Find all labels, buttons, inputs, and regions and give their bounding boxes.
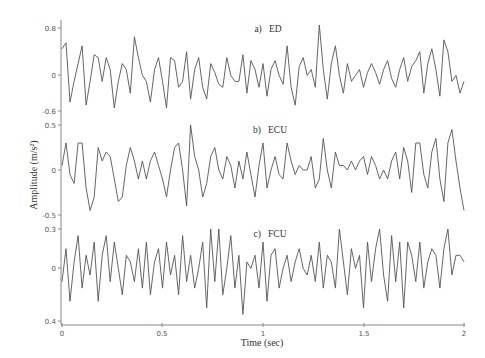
y-tick-label: -0.5	[42, 212, 56, 220]
panel-b-yaxis: 0.5 0 -0.5	[42, 122, 61, 220]
ed-signal-trace	[62, 25, 464, 108]
panel-c-title: c) FCU	[254, 229, 287, 240]
y-tick-label: 0	[52, 265, 56, 273]
y-tick-label: 0.8	[45, 25, 56, 33]
y-tick-label: 0.3	[45, 226, 56, 234]
x-axis-title: Time (sec)	[241, 337, 284, 349]
panel-a-title: a) ED	[254, 24, 281, 35]
x-tick-label: 0	[60, 330, 64, 338]
y-tick-label: 0.4	[45, 318, 57, 326]
fcu-signal-trace	[62, 229, 464, 314]
x-tick-label: 2	[462, 330, 466, 338]
panel-b-title: b) ECU	[253, 125, 287, 136]
panel-a-yaxis: 0.8 0 -0.6	[42, 25, 61, 116]
panel-c-yaxis: 0.3 0 0.4	[45, 226, 61, 326]
ecu-signal-trace	[62, 125, 464, 211]
y-tick-label: 0.5	[45, 122, 56, 130]
y-axis-title: Amplitude (m/s²)	[28, 140, 40, 209]
y-tick-label: 0	[52, 167, 56, 175]
x-tick-label: 1.5	[358, 330, 369, 338]
x-tick-label: 0.5	[156, 330, 167, 338]
y-tick-label: -0.6	[42, 108, 56, 116]
y-tick-label: 0	[52, 72, 56, 80]
emg-vibration-chart: 0.8 0 -0.6 0.5 0 -0.5 0.3 0 0.4 0 0.5 1 …	[0, 0, 485, 358]
